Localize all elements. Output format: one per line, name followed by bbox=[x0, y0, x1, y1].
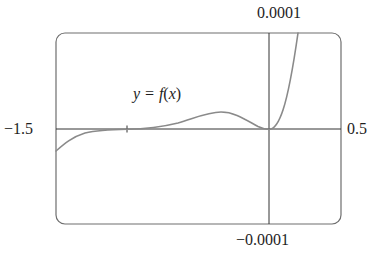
y-max-label: 0.0001 bbox=[257, 5, 301, 21]
chart-canvas bbox=[0, 0, 377, 259]
y-min-label: −0.0001 bbox=[236, 232, 289, 248]
curve-annotation-paren-close: ) bbox=[176, 85, 181, 102]
curve-annotation-var: x bbox=[169, 85, 176, 102]
curve-annotation-prefix: y = bbox=[133, 85, 159, 102]
x-max-label: 0.5 bbox=[347, 121, 367, 137]
x-min-label: −1.5 bbox=[4, 121, 33, 137]
curve-annotation: y = f(x) bbox=[133, 86, 181, 102]
